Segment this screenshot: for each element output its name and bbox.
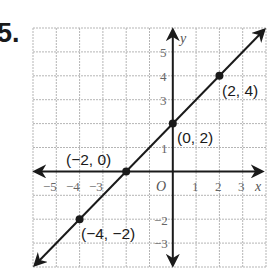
y-axis-label: y <box>178 31 187 46</box>
point-label-m4-m2: (−4, −2) <box>81 225 135 242</box>
y-tick-label: 1 <box>161 141 168 156</box>
y-tick-label: 3 <box>160 93 167 108</box>
x-tick-label: −3 <box>89 179 103 194</box>
point-0-2 <box>169 120 177 128</box>
x-axis-label: x <box>254 179 262 194</box>
x-tick-label: 2 <box>215 179 222 194</box>
point-m4-m2 <box>76 215 84 223</box>
y-tick-label: −3 <box>154 236 168 251</box>
y-tick-label: 5 <box>160 45 167 60</box>
point-2-4 <box>215 72 223 80</box>
x-tick-label: −4 <box>66 179 80 194</box>
point-label-0-2: (0, 2) <box>177 129 213 146</box>
y-tick-label: 4 <box>160 69 167 84</box>
coordinate-plane: −5 −4 −3 O 1 2 3 x y 5 4 3 1 −2 −3 (2, 4… <box>0 0 270 275</box>
point-m2-0 <box>122 167 130 175</box>
point-label-m2-0: (−2, 0) <box>66 151 111 168</box>
point-label-2-4: (2, 4) <box>222 82 258 99</box>
x-tick-label: 1 <box>192 179 199 194</box>
origin-label: O <box>156 179 166 194</box>
x-tick-label: −5 <box>43 179 57 194</box>
y-tick-label: −2 <box>154 213 168 228</box>
x-tick-label: 3 <box>238 179 245 194</box>
